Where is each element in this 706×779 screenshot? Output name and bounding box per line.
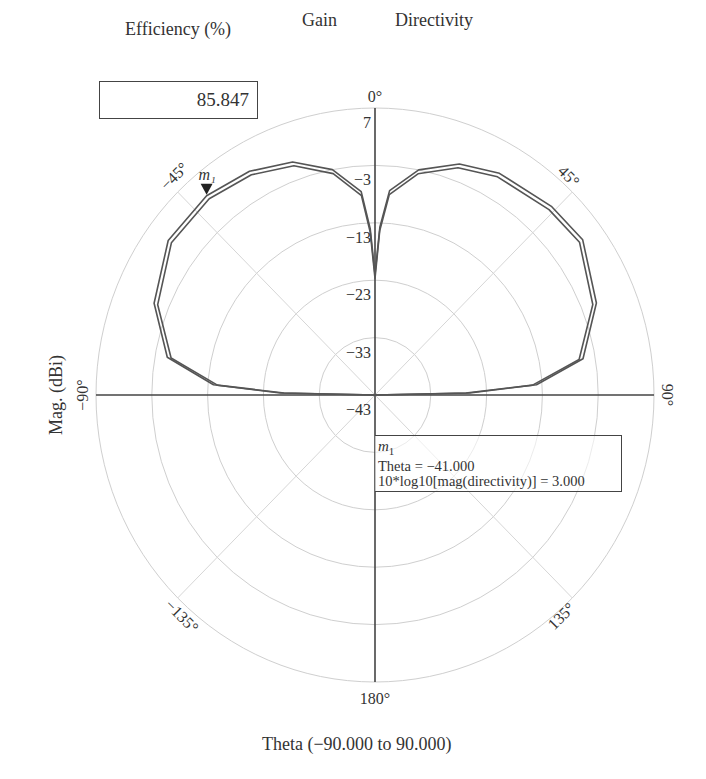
radial-tick-label: −43 <box>346 401 371 418</box>
y-axis-label: Mag. (dBi) <box>46 355 67 435</box>
radial-tick-label: 7 <box>363 114 371 131</box>
marker-label: m₁ <box>199 166 216 183</box>
angle-tick-label: 0° <box>368 88 382 105</box>
radial-tick-label: −3 <box>354 171 371 188</box>
grid-ray <box>375 192 572 395</box>
radial-tick-label: −13 <box>346 229 371 246</box>
marker-readout-box: m1 Theta = −41.000 10*log10[mag(directiv… <box>375 435 622 492</box>
marker-value: 10*log10[mag(directivity)] = 3.000 <box>378 474 621 489</box>
grid-ray <box>375 395 572 598</box>
angle-tick-label: −45° <box>157 159 191 193</box>
radial-tick-label: −23 <box>346 286 371 303</box>
angle-tick-label: 135° <box>544 599 578 633</box>
radial-tick-label: −33 <box>346 344 371 361</box>
angle-tick-label: 180° <box>360 690 390 707</box>
marker-theta: Theta = −41.000 <box>378 459 621 474</box>
angle-tick-label: 90° <box>659 384 676 406</box>
marker-name: m1 <box>378 439 621 459</box>
polar-plot: 7−3−13−23−33−430°45°90°135°180°−135°−90°… <box>0 0 706 779</box>
x-axis-label: Theta (−90.000 to 90.000) <box>262 734 452 755</box>
grid-ray <box>178 395 375 598</box>
angle-tick-label: 45° <box>555 162 583 190</box>
angle-tick-label: −90° <box>74 379 91 410</box>
